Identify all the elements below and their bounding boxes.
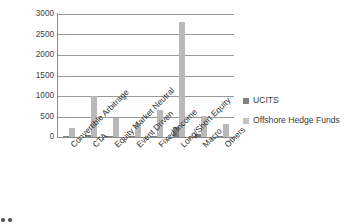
x-axis-tick	[168, 137, 169, 141]
x-axis-tick	[146, 137, 147, 141]
x-axis-tick	[212, 137, 213, 141]
chart-legend: UCITSOffshore Hedge Funds	[243, 96, 355, 136]
bar-chart: 300025002000150010005000 Convertible Arb…	[0, 0, 355, 224]
y-axis-tick-label: 2000	[20, 51, 54, 59]
legend-swatch-icon	[243, 98, 249, 104]
x-axis-tick	[124, 137, 125, 141]
legend-item: UCITS	[243, 96, 355, 105]
x-axis-tick	[190, 137, 191, 141]
y-axis-tick-label: 0	[20, 133, 54, 141]
legend-swatch-icon	[243, 118, 249, 124]
y-axis-tick-label: 2500	[20, 31, 54, 39]
y-axis-labels: 300025002000150010005000	[16, 0, 54, 224]
x-axis-tick	[102, 137, 103, 141]
y-axis-tick-label: 3000	[20, 10, 54, 18]
y-axis-tick-label: 1000	[20, 92, 54, 100]
x-axis-tick	[80, 137, 81, 141]
page-edge-artifact	[0, 216, 16, 224]
y-axis-tick-label: 500	[20, 113, 54, 121]
legend-label: UCITS	[253, 96, 279, 105]
x-axis-tick	[234, 137, 235, 141]
legend-item: Offshore Hedge Funds	[243, 116, 355, 125]
legend-label: Offshore Hedge Funds	[253, 116, 340, 125]
bar-group	[58, 14, 80, 137]
bar	[113, 118, 119, 137]
bar	[63, 136, 69, 137]
y-axis-tick-label: 1500	[20, 72, 54, 80]
